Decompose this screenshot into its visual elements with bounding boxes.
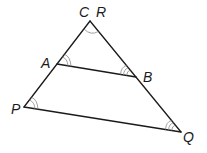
- label-b: B: [143, 69, 152, 85]
- label-r: R: [96, 4, 106, 20]
- segment-ab: [57, 64, 136, 77]
- side-pq: [24, 107, 181, 132]
- label-p: P: [11, 101, 21, 117]
- angle-mark-b: [121, 65, 131, 75]
- label-q: Q: [183, 129, 194, 145]
- triangle-diagram: C R A B P Q: [0, 0, 207, 153]
- angle-mark-q: [166, 120, 176, 130]
- label-a: A: [40, 55, 50, 71]
- label-c: C: [79, 4, 90, 20]
